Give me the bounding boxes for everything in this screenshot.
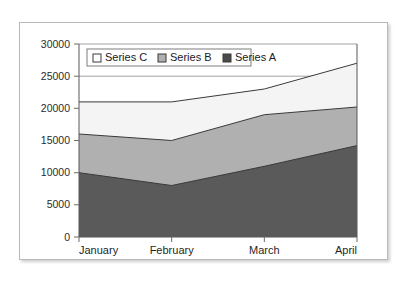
legend-swatch-series-b [158,54,166,62]
legend-swatch-series-c [93,54,101,62]
y-tick-label-15000: 15000 [41,134,70,146]
x-tick-label-april: April [335,244,357,256]
x-tick-label-march: March [249,244,280,256]
y-tick-label-25000: 25000 [41,70,70,82]
y-tick-label-20000: 20000 [41,102,70,114]
y-tick-label-10000: 10000 [41,166,70,178]
x-axis-labels: January February March April [79,244,357,256]
y-tick-label-0: 0 [64,231,70,243]
legend-label-series-c: Series C [105,51,147,63]
chart-card-frame: 0 5000 10000 15000 20000 25000 30000 [19,22,388,260]
x-axis-ticks [79,237,357,242]
y-axis-labels: 0 5000 10000 15000 20000 25000 30000 [41,38,70,243]
legend-label-series-b: Series B [170,51,212,63]
chart-svg: 0 5000 10000 15000 20000 25000 30000 [20,23,389,261]
x-tick-label-january: January [79,244,119,256]
y-tick-label-30000: 30000 [41,38,70,50]
legend-label-series-a: Series A [235,51,277,63]
stacked-area-chart: 0 5000 10000 15000 20000 25000 30000 [20,23,389,261]
y-tick-label-5000: 5000 [47,198,71,210]
screenshot-root: 0 5000 10000 15000 20000 25000 30000 [0,0,410,283]
y-axis-ticks [74,44,79,237]
chart-legend: Series C Series B Series A [87,49,277,66]
x-tick-label-february: February [150,244,195,256]
legend-swatch-series-a [223,54,231,62]
